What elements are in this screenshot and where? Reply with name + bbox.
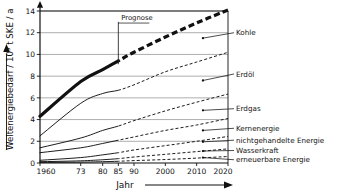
x-axis-title: Jahr bbox=[115, 180, 134, 190]
series-line-forecast bbox=[40, 52, 228, 136]
series-label-erdoel: Erdöl bbox=[236, 70, 254, 79]
series-label-wasserkraft: Wasserkraft bbox=[236, 146, 279, 155]
x-tick-label-2000: 2000 bbox=[156, 167, 175, 176]
x-tick-label-1980: 80 bbox=[98, 167, 108, 176]
x-axis-ticks: 196073808590200020102020 bbox=[37, 163, 233, 176]
leader-dot-erdoel bbox=[202, 79, 204, 81]
energy-demand-chart-figure: 02468101214196073808590200020102020Progn… bbox=[0, 0, 342, 196]
chart-canvas: 02468101214196073808590200020102020Progn… bbox=[0, 0, 342, 196]
leader-dot-kohle bbox=[202, 37, 204, 39]
leader-line-kohle bbox=[203, 33, 234, 38]
x-tick-label-2010: 2010 bbox=[187, 167, 206, 176]
leader-line-kernenergie bbox=[203, 128, 234, 130]
leader-line-erdgas bbox=[203, 109, 234, 111]
x-tick-label-1990: 90 bbox=[129, 167, 139, 176]
x-tick-label-1973: 73 bbox=[76, 167, 86, 176]
leader-dot-erneuerbare-energie bbox=[202, 156, 204, 158]
x-tick-label-1985: 85 bbox=[114, 167, 124, 176]
y-axis-ticks: 02468101214 bbox=[25, 7, 40, 168]
series-erdoel bbox=[40, 52, 228, 136]
leader-dot-erdgas bbox=[202, 109, 204, 111]
leader-line-erdoel bbox=[203, 74, 234, 81]
series-label-kernenergie: Kernenergie bbox=[236, 124, 280, 133]
axes bbox=[37, 1, 228, 163]
series-label-nichtgehandelte-energie: nichtgehandelte Energie bbox=[236, 136, 325, 145]
leader-dot-nichtgehandelte-energie bbox=[202, 141, 204, 143]
series-label-kohle: Kohle bbox=[236, 28, 256, 37]
y-axis-arrow bbox=[37, 1, 43, 8]
leader-dot-wasserkraft bbox=[202, 150, 204, 152]
y-tick-label-4: 4 bbox=[30, 115, 35, 124]
prognose-label: Prognose bbox=[121, 14, 152, 22]
leader-line-erneuerbare-energie bbox=[203, 158, 234, 160]
leader-dot-kernenergie bbox=[202, 129, 204, 131]
y-tick-label-8: 8 bbox=[30, 72, 35, 81]
series-label-erneuerbare-energie: erneuerbare Energie bbox=[236, 155, 311, 164]
series-line-historical bbox=[40, 149, 228, 162]
x-tick-label-2020: 2020 bbox=[213, 167, 232, 176]
series-line-forecast bbox=[40, 94, 228, 148]
series-line-forecast bbox=[40, 149, 228, 162]
y-tick-label-12: 12 bbox=[25, 28, 35, 37]
series-wasserkraft bbox=[40, 149, 228, 162]
series-line-forecast bbox=[40, 118, 228, 152]
x-axis-title-arrow bbox=[224, 181, 233, 188]
x-tick-label-1960: 1960 bbox=[37, 167, 56, 176]
series-line-historical bbox=[40, 52, 228, 136]
series-erdgas bbox=[40, 94, 228, 148]
series-label-erdgas: Erdgas bbox=[236, 104, 261, 113]
y-tick-label-14: 14 bbox=[25, 7, 35, 16]
series-labels: KohleErdölErdgasKernenergienichtgehandel… bbox=[202, 28, 325, 164]
y-tick-label-6: 6 bbox=[30, 94, 35, 103]
series-kohle bbox=[40, 10, 228, 116]
gridlines bbox=[40, 11, 228, 141]
series-line-historical bbox=[40, 10, 228, 116]
leader-line-wasserkraft bbox=[203, 151, 234, 152]
y-tick-label-10: 10 bbox=[25, 50, 35, 59]
series-line-historical bbox=[40, 118, 228, 152]
y-tick-label-2: 2 bbox=[30, 137, 35, 146]
series-line-forecast bbox=[40, 10, 228, 116]
y-tick-label-0: 0 bbox=[30, 159, 35, 168]
series-kernenergie bbox=[40, 118, 228, 152]
